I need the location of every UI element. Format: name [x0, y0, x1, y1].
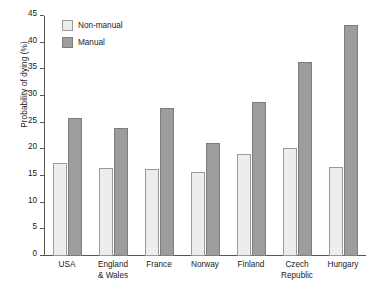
bar-group [237, 16, 266, 256]
legend-swatch-manual [62, 37, 73, 48]
y-tick-label: 40 [28, 36, 37, 45]
y-tick-label: 45 [28, 9, 37, 18]
bar-manual [68, 118, 82, 256]
bar-nonmanual [145, 169, 159, 256]
x-axis-label-line: Republic [264, 271, 330, 282]
bar-manual [344, 25, 358, 256]
bar-manual [252, 102, 266, 256]
bar-nonmanual [329, 167, 343, 256]
y-tick-label: 15 [28, 169, 37, 178]
bar-nonmanual [283, 148, 297, 256]
bar-nonmanual [237, 154, 251, 256]
bar-group [329, 16, 358, 256]
legend-swatch-nonmanual [62, 20, 73, 31]
bar-nonmanual [99, 168, 113, 256]
legend-item: Non-manual [62, 18, 182, 32]
bar-group [191, 16, 220, 256]
bar-manual [298, 62, 312, 256]
plot-area: 051015202530354045 [44, 16, 366, 256]
bar-group [283, 16, 312, 256]
x-axis-label-line: Hungary [310, 260, 374, 271]
y-tick-label: 25 [28, 116, 37, 125]
x-axis-labels: USAEngland& WalesFranceNorwayFinlandCzec… [44, 260, 366, 294]
legend-label: Manual [78, 38, 105, 47]
y-tick-label: 10 [28, 196, 37, 205]
bar-chart: Probability of dying (%) 051015202530354… [0, 0, 374, 298]
bar-group [53, 16, 82, 256]
y-tick-label: 35 [28, 62, 37, 71]
bar-groups [44, 16, 366, 256]
x-axis-label: Hungary [310, 260, 374, 271]
legend-label: Non-manual [78, 21, 123, 30]
bar-nonmanual [191, 172, 205, 256]
bar-group [145, 16, 174, 256]
y-tick-label: 5 [32, 222, 37, 231]
x-axis-label-line: & Wales [80, 271, 146, 282]
bar-nonmanual [53, 163, 67, 256]
chart-legend: Non-manualManual [62, 18, 182, 52]
bar-manual [160, 108, 174, 256]
bar-group [99, 16, 128, 256]
y-tick-label: 20 [28, 142, 37, 151]
legend-item: Manual [62, 35, 182, 49]
bar-manual [114, 128, 128, 256]
y-tick-label: 0 [32, 249, 37, 258]
bar-manual [206, 143, 220, 256]
y-tick-label: 30 [28, 89, 37, 98]
y-axis-title: Probability of dying (%) [20, 5, 29, 165]
